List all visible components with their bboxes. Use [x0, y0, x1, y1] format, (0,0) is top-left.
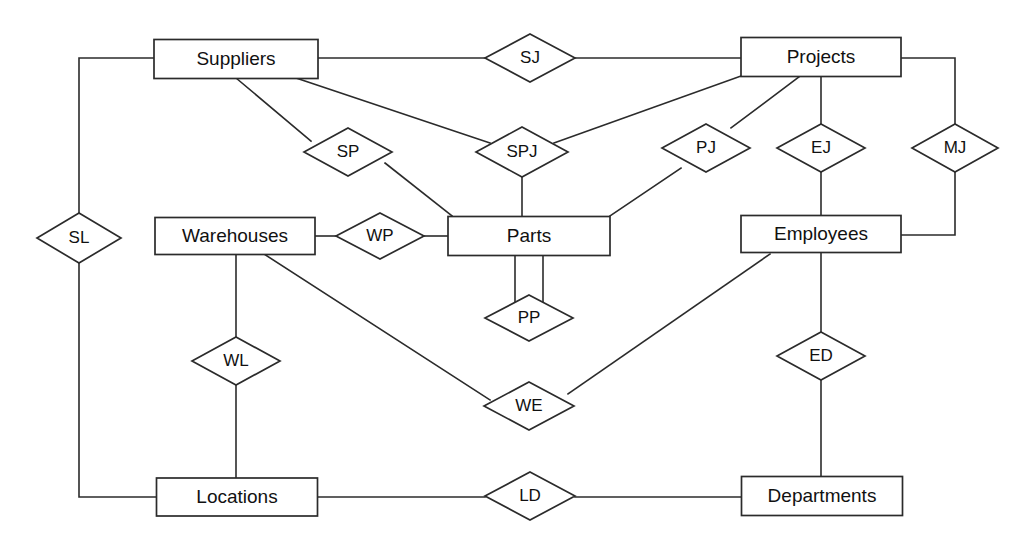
relationship-sp[interactable]: SP	[304, 128, 392, 176]
edge-sp-parts	[385, 163, 452, 216]
entity-parts[interactable]: Parts	[448, 217, 610, 256]
entity-projects[interactable]: Projects	[741, 38, 901, 77]
entity-label-parts: Parts	[507, 225, 551, 246]
edge-projects-mj	[900, 58, 955, 124]
relationship-label-ej: EJ	[811, 138, 831, 157]
edge-suppliers-spj	[296, 78, 490, 143]
relationship-label-ed: ED	[809, 346, 833, 365]
edge-we-employees	[568, 254, 770, 394]
relationship-label-mj: MJ	[944, 138, 967, 157]
edge-suppliers-sp	[236, 78, 311, 141]
relationship-ld[interactable]: LD	[485, 472, 575, 520]
edge-projects-pj	[731, 76, 800, 128]
relationship-label-pj: PJ	[696, 138, 716, 157]
relationship-label-wp: WP	[366, 226, 393, 245]
relationship-label-pp: PP	[518, 308, 541, 327]
relationship-spj[interactable]: SPJ	[476, 127, 568, 177]
relationship-label-we: WE	[515, 396, 542, 415]
relationship-wl[interactable]: WL	[192, 337, 280, 385]
entity-label-suppliers: Suppliers	[196, 48, 275, 69]
relationship-label-wl: WL	[223, 351, 249, 370]
edge-suppliers-sl	[79, 58, 154, 213]
er-diagram-canvas: SuppliersProjectsWarehousesPartsEmployee…	[0, 0, 1031, 539]
relationship-we[interactable]: WE	[484, 382, 574, 430]
entities-layer: SuppliersProjectsWarehousesPartsEmployee…	[154, 38, 903, 517]
entity-warehouses[interactable]: Warehouses	[155, 218, 315, 255]
relationship-sj[interactable]: SJ	[485, 34, 575, 82]
relationship-ed[interactable]: ED	[777, 332, 865, 380]
relationship-label-sp: SP	[337, 142, 360, 161]
relationship-label-sj: SJ	[520, 48, 540, 67]
entity-employees[interactable]: Employees	[741, 216, 901, 253]
relationship-ej[interactable]: EJ	[777, 124, 865, 172]
relationship-pp[interactable]: PP	[485, 295, 573, 341]
entity-label-locations: Locations	[196, 486, 277, 507]
edges-layer	[79, 58, 955, 497]
er-diagram-svg: SuppliersProjectsWarehousesPartsEmployee…	[0, 0, 1031, 539]
relationship-pj[interactable]: PJ	[662, 124, 750, 172]
entity-suppliers[interactable]: Suppliers	[154, 40, 318, 79]
entity-departments[interactable]: Departments	[742, 477, 903, 516]
entity-label-projects: Projects	[787, 46, 856, 67]
entity-label-departments: Departments	[768, 485, 877, 506]
relationship-mj[interactable]: MJ	[912, 124, 998, 172]
edge-sl-locations	[79, 263, 157, 497]
entity-label-employees: Employees	[774, 223, 868, 244]
relationships-layer: SJSPSPJPJEJMJSLWPPPWLWEEDLD	[37, 34, 998, 520]
entity-label-warehouses: Warehouses	[182, 225, 288, 246]
relationship-label-ld: LD	[519, 486, 541, 505]
edge-mj-employees	[900, 172, 955, 235]
relationship-wp[interactable]: WP	[336, 213, 424, 259]
edge-pj-parts	[610, 168, 681, 216]
edge-warehouses-we	[264, 254, 490, 400]
relationship-sl[interactable]: SL	[37, 213, 121, 263]
relationship-label-spj: SPJ	[506, 142, 537, 161]
entity-locations[interactable]: Locations	[157, 478, 318, 516]
relationship-label-sl: SL	[69, 228, 90, 247]
